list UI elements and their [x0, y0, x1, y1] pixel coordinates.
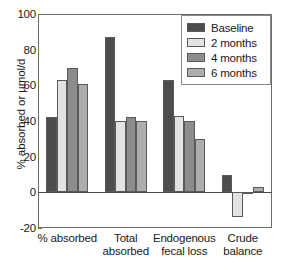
bar — [243, 192, 254, 194]
bar-chart: % absorbed or µmol/d -20020406080100 % a… — [0, 0, 286, 270]
bar — [136, 121, 147, 192]
bar — [184, 121, 195, 192]
y-tick-label: 0 — [0, 186, 36, 198]
legend-item: 2 months — [187, 36, 266, 49]
bar — [78, 84, 89, 193]
bar — [195, 139, 206, 193]
legend-label: 2 months — [211, 37, 257, 49]
y-tick-label: 80 — [0, 44, 36, 56]
legend-swatch-2-months — [187, 38, 205, 47]
x-axis-group-label-line: balance — [197, 245, 286, 258]
y-tick-label: 20 — [0, 151, 36, 163]
bar — [57, 80, 68, 192]
legend-item: 4 months — [187, 51, 266, 64]
bar — [232, 192, 243, 217]
x-axis-group-label: Crudebalance — [197, 232, 286, 258]
legend-item: 6 months — [187, 66, 266, 79]
y-tick-label: 60 — [0, 79, 36, 91]
bar — [174, 116, 185, 193]
chart-legend: Baseline 2 months 4 months 6 months — [181, 15, 271, 85]
bar — [126, 117, 137, 192]
x-axis-group-label-line: Crude — [197, 232, 286, 245]
bar — [115, 121, 126, 192]
y-tick-label: 100 — [0, 8, 36, 20]
legend-label: 6 months — [211, 67, 257, 79]
bar — [105, 37, 116, 192]
legend-swatch-baseline — [187, 23, 205, 32]
legend-swatch-6-months — [187, 68, 205, 77]
bar — [46, 117, 57, 192]
bar — [67, 68, 78, 193]
legend-item: Baseline — [187, 21, 266, 34]
y-tick-label: 40 — [0, 115, 36, 127]
legend-swatch-4-months — [187, 53, 205, 62]
y-tick-mark — [38, 228, 42, 229]
bar — [253, 187, 264, 192]
legend-label: 4 months — [211, 52, 257, 64]
bar — [163, 80, 174, 192]
bar — [222, 175, 233, 193]
legend-label: Baseline — [211, 22, 254, 34]
